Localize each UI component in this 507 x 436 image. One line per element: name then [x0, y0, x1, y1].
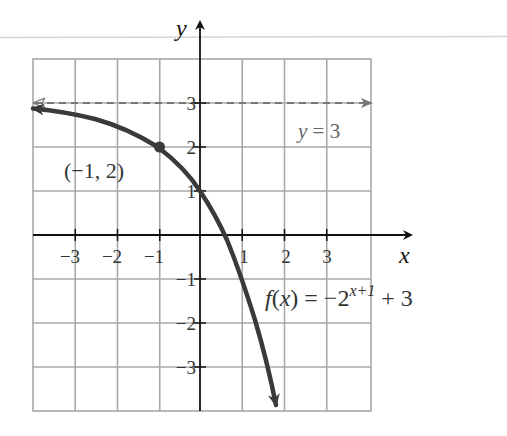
function-paren-open: ( [272, 285, 280, 311]
point-marker [154, 142, 165, 153]
page-rule [0, 37, 507, 38]
asymptote-label: y = 3 [296, 119, 340, 143]
y-tick-label: 2 [187, 137, 197, 158]
chart-canvas: −3 −2 −1 1 2 3 3 2 1 −1 −2 −3 y x (−1, 2… [0, 0, 507, 436]
function-paren-close: ) [290, 285, 298, 311]
x-axis-label: x [398, 242, 410, 268]
exponential-function-graph: −3 −2 −1 1 2 3 3 2 1 −1 −2 −3 y x (−1, 2… [0, 0, 507, 436]
function-exponent: x+1 [348, 282, 375, 299]
asymptote-label-eq: = 3 [307, 119, 340, 143]
x-tick-labels: −3 −2 −1 1 2 3 [60, 246, 332, 267]
function-eq: = −2 [298, 285, 349, 311]
function-label: f(x) = −2x+1 + 3 [265, 282, 413, 311]
y-tick-label: −1 [176, 269, 196, 290]
x-tick-label: 2 [281, 246, 291, 267]
function-tail: + 3 [375, 285, 413, 311]
point-label: (−1, 2) [64, 158, 124, 183]
y-tick-label: −3 [176, 357, 196, 378]
y-axis-label: y [174, 15, 187, 41]
x-tick-label: −2 [102, 246, 122, 267]
y-tick-label: −2 [176, 313, 196, 334]
x-tick-label: −1 [144, 246, 164, 267]
y-tick-label: 3 [187, 93, 197, 114]
x-tick-label: −3 [60, 246, 80, 267]
x-tick-label: 3 [322, 246, 332, 267]
x-tick-label: 1 [239, 246, 249, 267]
function-var: x [279, 285, 291, 311]
asymptote-label-var: y [296, 119, 308, 143]
